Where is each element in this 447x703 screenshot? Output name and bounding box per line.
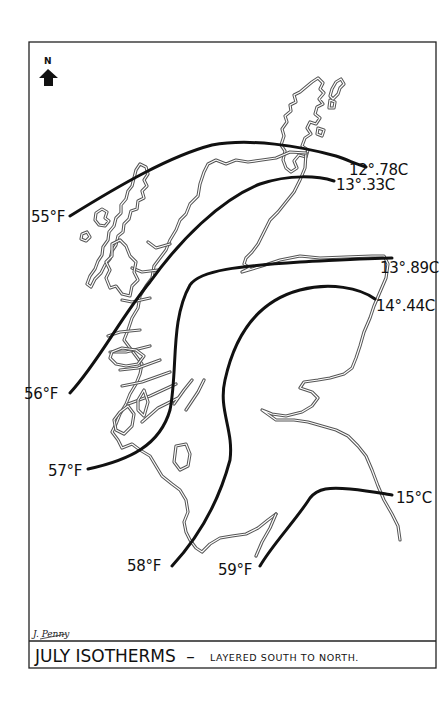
map-title: JULY ISOTHERMS – LAYERED SOUTH TO NORTH. xyxy=(34,646,359,666)
label-57f: 57°F xyxy=(48,462,82,480)
mainland xyxy=(106,152,400,556)
label-58f: 58°F xyxy=(127,557,161,575)
north-label: N xyxy=(44,56,52,66)
outer-hebrides xyxy=(81,164,148,287)
label-56f: 56°F xyxy=(24,385,58,403)
label-59f: 59°F xyxy=(218,561,252,579)
isotherm-59 xyxy=(260,488,392,566)
title-main: JULY ISOTHERMS – xyxy=(34,646,195,666)
orkney-islands xyxy=(281,78,344,172)
isotherm-labels: 55°F 12°.78C 56°F 13°.33C 57°F 13°.89C 5… xyxy=(24,161,439,579)
isotherm-58 xyxy=(172,286,375,566)
label-15c: 15°C xyxy=(396,489,432,507)
coastline xyxy=(81,78,400,556)
north-arrow: N xyxy=(39,56,58,86)
label-14-44c: 14°.44C xyxy=(376,297,435,315)
label-55f: 55°F xyxy=(31,208,65,226)
north-arrow-icon xyxy=(39,69,58,86)
label-13-89c: 13°.89C xyxy=(380,259,439,277)
isotherm-map: N xyxy=(0,0,447,703)
isotherm-lines xyxy=(70,142,392,566)
label-13-33c: 13°.33C xyxy=(336,176,395,194)
title-subtitle: LAYERED SOUTH TO NORTH. xyxy=(210,652,359,663)
